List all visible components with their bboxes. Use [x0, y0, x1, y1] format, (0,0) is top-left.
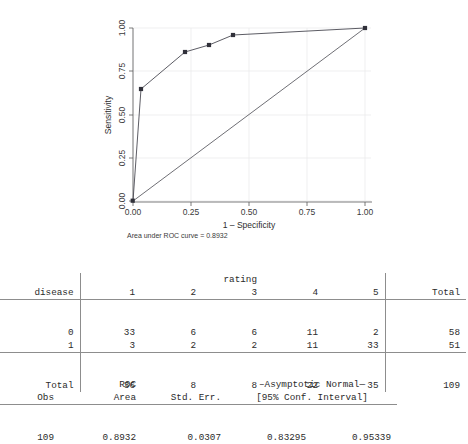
- crosstab-col-header-4: 4: [263, 286, 324, 300]
- roc-stats-rule-c5: [397, 405, 468, 419]
- roc-stats-spacer-c2: [142, 418, 227, 431]
- roc-stats-stderr-header: Std. Err.: [142, 391, 227, 405]
- crosstab-spacer-a1: [80, 313, 141, 326]
- crosstab-spacer-a5: [324, 313, 385, 326]
- table-row: 1 3 2 2 11 33 51: [0, 339, 466, 353]
- roc-stats-ci-low-value: 0.83295: [227, 431, 312, 444]
- crosstab-rule-c6: [385, 300, 466, 314]
- roc-stats-table: ROC –Asymptotic Normal— Obs Area Std. Er…: [0, 378, 468, 444]
- x-axis-title: 1 – Specificity: [223, 220, 276, 230]
- crosstab-spacer-a2: [141, 313, 202, 326]
- roc-stats-rule-c4: [312, 405, 397, 419]
- roc-stats-spacer-c0: [0, 418, 60, 431]
- crosstab-col-header-5: 5: [324, 286, 385, 300]
- crosstab-header-row: disease 1 2 3 4 5 Total: [0, 286, 466, 300]
- roc-chart-panel: 0.00 0.25 0.50 0.75 1.00 Sensitivity 0.0…: [95, 2, 405, 240]
- x-tick-2: 0.50: [241, 207, 258, 217]
- y-tick-2: 0.50: [117, 106, 127, 123]
- crosstab-row-total: 51: [385, 339, 466, 353]
- roc-stats-rule-c1: [60, 405, 142, 419]
- crosstab-cell: 6: [202, 326, 263, 339]
- roc-stats-table-wrapper: ROC –Asymptotic Normal— Obs Area Std. Er…: [0, 352, 468, 444]
- roc-stats-spacer-c3: [227, 418, 312, 431]
- crosstab-spacer-a6: [385, 313, 466, 326]
- roc-stats-data-row: 109 0.8932 0.0307 0.83295 0.95339: [0, 431, 468, 444]
- crosstab-col-header-1: 1: [80, 286, 141, 300]
- roc-stats-ci-high-value: 0.95339: [312, 431, 397, 444]
- y-tick-1: 0.25: [117, 149, 127, 166]
- roc-stats-spacer-row: [0, 418, 468, 431]
- roc-stats-blank-2: [397, 378, 468, 391]
- crosstab-cell: 2: [324, 326, 385, 339]
- crosstab-group-spacer-4: [324, 273, 385, 286]
- x-tick-1: 0.25: [183, 207, 200, 217]
- roc-stats-spacer-c4: [312, 418, 397, 431]
- crosstab-spacer-a0: [0, 313, 80, 326]
- roc-stats-rule-c3: [227, 405, 312, 419]
- crosstab-row-label: 1: [0, 339, 80, 353]
- crosstab-row-label: 0: [0, 326, 80, 339]
- roc-stats-area-header-line1: ROC: [60, 378, 142, 391]
- roc-stats-ci-group-header: –Asymptotic Normal—: [227, 378, 397, 391]
- crosstab-header-rule-row: [0, 300, 466, 314]
- crosstab-rule-c4: [263, 300, 324, 314]
- y-tick-3: 0.75: [117, 62, 127, 79]
- roc-stats-rule-row: [0, 405, 468, 419]
- crosstab-row-var-label: disease: [0, 286, 80, 300]
- crosstab-cell: 6: [141, 326, 202, 339]
- crosstab-group-spacer-5: [385, 273, 466, 286]
- crosstab-total-header: Total: [385, 286, 466, 300]
- roc-stats-rule-c0: [0, 405, 60, 419]
- crosstab-col-header-2: 2: [141, 286, 202, 300]
- crosstab-cell: 33: [324, 339, 385, 353]
- crosstab-cell: 2: [202, 339, 263, 353]
- crosstab-group-spacer-2: [141, 273, 202, 286]
- crosstab-cell: 2: [141, 339, 202, 353]
- crosstab-cell: 11: [263, 326, 324, 339]
- y-axis-title: Sensitivity: [103, 95, 113, 134]
- roc-stats-stderr-value: 0.0307: [142, 431, 227, 444]
- roc-stats-obs-header: Obs: [0, 391, 60, 405]
- crosstab-rule-c3: [202, 300, 263, 314]
- auc-annotation: Area under ROC curve = 0.8932: [127, 232, 228, 239]
- crosstab-rule-c5: [324, 300, 385, 314]
- roc-stats-header-row-1: ROC –Asymptotic Normal—: [0, 378, 468, 391]
- roc-stats-header-row-2: Obs Area Std. Err. [95% Conf. Interval]: [0, 391, 468, 405]
- crosstab-group-spacer-3: [263, 273, 324, 286]
- roc-stats-blank-4: [397, 431, 468, 444]
- crosstab-col-header-3: 3: [202, 286, 263, 300]
- roc-stats-obs-value: 109: [0, 431, 60, 444]
- roc-stats-spacer-c1: [60, 418, 142, 431]
- chart-background: [95, 2, 405, 240]
- crosstab-corner-blank: [0, 273, 80, 286]
- x-tick-0: 0.00: [125, 207, 142, 217]
- roc-stats-ci-header: [95% Conf. Interval]: [227, 391, 397, 405]
- roc-stats-area-value: 0.8932: [60, 431, 142, 444]
- crosstab-group-header-row: rating: [0, 273, 466, 286]
- crosstab-spacer-a4: [263, 313, 324, 326]
- roc-stats-rule-c2: [142, 405, 227, 419]
- table-row: 0 33 6 6 11 2 58: [0, 326, 466, 339]
- roc-stats-stderr-header-line1: [142, 378, 227, 391]
- roc-stats-spacer-c5: [397, 418, 468, 431]
- roc-stats-blank-3: [397, 391, 468, 405]
- crosstab-cell: 3: [80, 339, 141, 353]
- crosstab-spacer-row-a: [0, 313, 466, 326]
- roc-chart-svg: 0.00 0.25 0.50 0.75 1.00 Sensitivity 0.0…: [95, 2, 405, 240]
- crosstab-group-label: rating: [202, 273, 263, 286]
- crosstab-rule-c2: [141, 300, 202, 314]
- crosstab-row-total: 58: [385, 326, 466, 339]
- roc-stats-area-header: Area: [60, 391, 142, 405]
- y-tick-4: 1.00: [117, 19, 127, 36]
- x-tick-4: 1.00: [357, 207, 374, 217]
- crosstab-cell: 11: [263, 339, 324, 353]
- crosstab-cell: 33: [80, 326, 141, 339]
- crosstab-rule-c1: [80, 300, 141, 314]
- x-tick-3: 0.75: [299, 207, 316, 217]
- crosstab-group-spacer-1: [80, 273, 141, 286]
- crosstab-spacer-a3: [202, 313, 263, 326]
- crosstab-rule-c0: [0, 300, 80, 314]
- roc-stats-blank-1: [0, 378, 60, 391]
